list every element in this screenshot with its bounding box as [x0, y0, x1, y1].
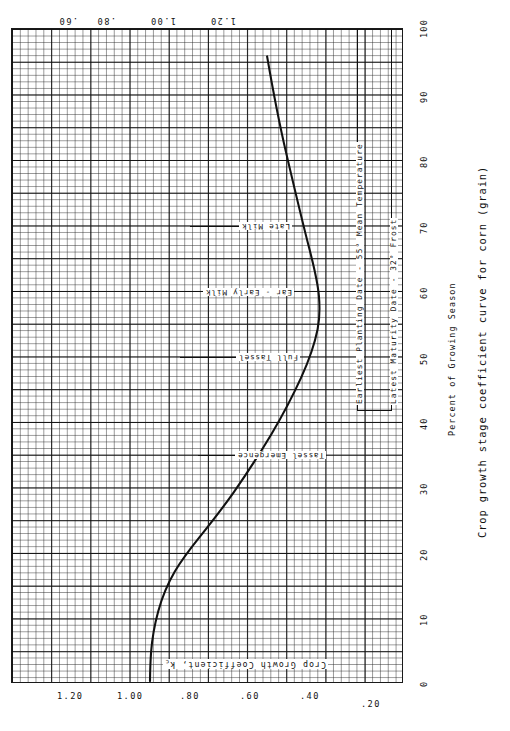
y-tick-top-0-80: .80 [96, 16, 116, 25]
x-tick-80: 80 [420, 155, 429, 168]
annotation-latest-maturity-date: Latest Maturity Date - 32° Frost [390, 218, 398, 405]
y-tick-bottom-1-20: 1.20 [57, 692, 83, 701]
x-tick-10: 10 [420, 613, 429, 626]
annotation-tassel-emergence: Tassel Emergence [235, 451, 326, 459]
x-tick-30: 30 [420, 482, 429, 495]
annotation-ear-early-milk: Ear - Early Milk [203, 288, 294, 296]
plot-area: Tassel Emergence Full Tassel Ear - Early… [11, 28, 403, 683]
annotation-late-milk: Late Milk [239, 222, 292, 230]
y-axis-title-subscript: c [165, 659, 170, 666]
x-tick-50: 50 [420, 352, 429, 365]
y-tick-bottom-0-40: .40 [300, 692, 320, 701]
annotation-earliest-planting-date: Earliest Planting Date - 55° Mean Temper… [356, 142, 364, 405]
x-tick-60: 60 [420, 286, 429, 299]
x-tick-20: 20 [420, 548, 429, 561]
y-axis-title: Crop Growth Coefficient, kc [163, 659, 328, 669]
figure-caption: Crop growth stage coefficient curve for … [477, 166, 487, 538]
x-tick-100: 100 [420, 19, 429, 38]
y-tick-top-0-60: .60 [58, 16, 78, 25]
growth-coefficient-curve [12, 29, 402, 682]
x-tick-90: 90 [420, 90, 429, 103]
x-tick-70: 70 [420, 221, 429, 234]
x-tick-40: 40 [420, 417, 429, 430]
y-tick-bottom-0-60: .60 [240, 692, 260, 701]
y-tick-bottom-1-00: 1.00 [117, 692, 143, 701]
y-tick-bottom-0-20: .20 [361, 700, 381, 709]
y-tick-top-1-00: 1.00 [150, 16, 176, 25]
divider-date-bottom [357, 410, 392, 411]
y-axis-title-text: Crop Growth Coefficient, k [169, 660, 326, 670]
y-tick-top-1-20: 1.20 [210, 16, 236, 25]
annotation-full-tassel: Full Tassel [236, 353, 300, 361]
y-tick-bottom-0-80: .80 [180, 692, 200, 701]
x-tick-0: 0 [420, 681, 429, 687]
x-axis-title: Percent of Growing Season [448, 282, 456, 436]
